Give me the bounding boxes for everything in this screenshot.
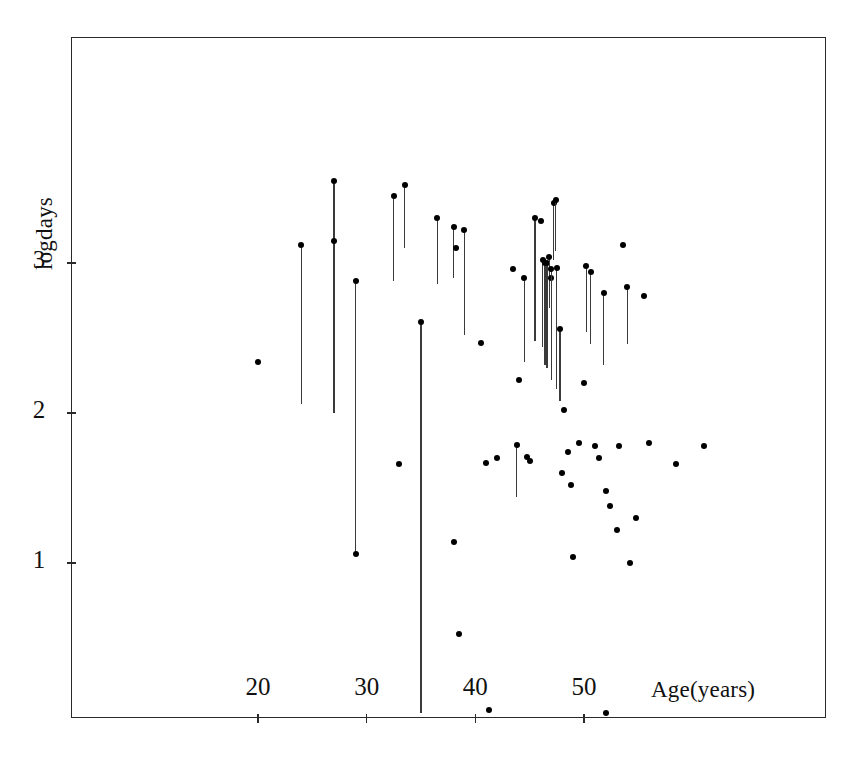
plot-frame (71, 37, 826, 718)
data-point (514, 442, 520, 448)
data-point-stem (603, 293, 604, 365)
data-point-stem (464, 230, 465, 335)
x-tick-label: 50 (554, 673, 614, 701)
x-axis-title: Age(years) (651, 677, 755, 703)
y-tick-label: 3 (19, 246, 59, 274)
data-point (601, 290, 607, 296)
x-tick-label: 40 (445, 673, 505, 701)
x-tick-label: 20 (228, 673, 288, 701)
data-point-stem (393, 196, 394, 282)
data-point-stem (420, 322, 421, 714)
data-point-stem (559, 329, 560, 401)
data-point-stem (453, 227, 454, 278)
data-point-stem (542, 260, 543, 347)
data-point-stem (555, 200, 556, 251)
data-point (588, 269, 594, 275)
data-point (418, 319, 424, 325)
data-point (701, 443, 707, 449)
data-point (516, 377, 522, 383)
data-point (478, 340, 484, 346)
data-point (255, 359, 261, 365)
data-point-stem (551, 269, 552, 380)
data-point-stem (301, 245, 302, 404)
data-point-stem (549, 257, 550, 308)
data-point (603, 710, 609, 716)
data-point (451, 539, 457, 545)
data-point (402, 182, 408, 188)
data-point (614, 527, 620, 533)
y-tick-mark (67, 262, 76, 264)
data-point (565, 449, 571, 455)
data-point-stem (590, 272, 591, 344)
data-point (627, 560, 633, 566)
data-point (553, 197, 559, 203)
data-point (453, 245, 459, 251)
data-point (568, 482, 574, 488)
data-point-stem (355, 281, 356, 554)
x-tick-mark (583, 714, 585, 723)
data-point (616, 443, 622, 449)
data-point (603, 488, 609, 494)
data-point-stem (437, 218, 438, 284)
x-tick-mark (475, 714, 477, 723)
data-point-stem (333, 241, 334, 414)
data-point (331, 238, 337, 244)
data-point (581, 380, 587, 386)
data-point (353, 551, 359, 557)
data-point-stem (553, 203, 554, 260)
data-point-stem (534, 218, 535, 341)
data-point-stem (404, 185, 405, 248)
y-tick-mark (67, 412, 76, 414)
data-point (554, 265, 560, 271)
y-tick-label: 1 (19, 546, 59, 574)
data-point-stem (544, 263, 545, 365)
data-point-stem (516, 445, 517, 498)
data-point (527, 458, 533, 464)
figure-canvas: logdays Age(years) 123 20304050 (0, 0, 866, 764)
data-point (353, 278, 359, 284)
data-point (592, 443, 598, 449)
data-point (641, 293, 647, 299)
data-point (538, 218, 544, 224)
x-tick-mark (366, 714, 368, 723)
data-point (391, 193, 397, 199)
data-point (456, 631, 462, 637)
data-point (451, 224, 457, 230)
data-point-stem (627, 287, 628, 344)
y-tick-label: 2 (19, 396, 59, 424)
y-tick-mark (67, 562, 76, 564)
x-tick-label: 30 (337, 673, 397, 701)
data-point (576, 440, 582, 446)
x-tick-mark (257, 714, 259, 723)
data-point (483, 460, 489, 466)
data-point-stem (524, 278, 525, 362)
data-point (331, 178, 337, 184)
data-point-stem (586, 266, 587, 332)
